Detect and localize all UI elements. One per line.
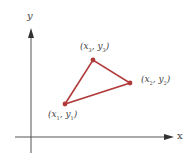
x-axis-label: x [177,130,183,141]
x-axis-arrow-icon [164,134,174,140]
vertex-p3 [91,58,96,63]
triangle [65,60,130,104]
label-p1: (x1, y1) [48,109,77,121]
vertex-p2 [128,81,133,86]
label-p3: (x3, y3) [80,41,109,53]
y-axis-label: y [27,10,33,21]
y-axis-arrow-icon [28,28,34,38]
label-p2: (x2, y2) [141,74,170,86]
vertex-p1 [63,102,68,107]
